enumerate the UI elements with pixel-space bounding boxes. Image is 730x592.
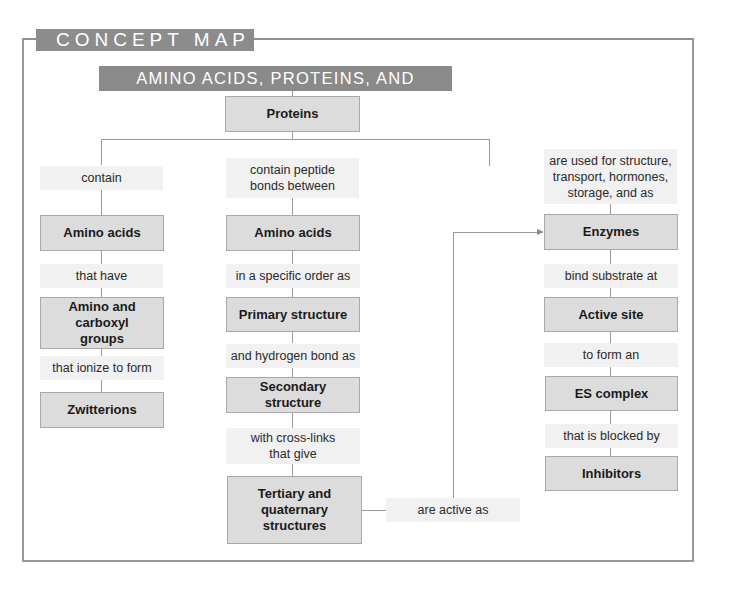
- node-proteins: Proteins: [225, 96, 360, 132]
- node-amino-acids-left: Amino acids: [40, 215, 164, 251]
- connector: [453, 232, 538, 233]
- connector: [610, 331, 611, 343]
- node-amino-acids-middle: Amino acids: [226, 215, 360, 251]
- connector: [292, 250, 293, 264]
- link-used-for: are used for structure, transport, hormo…: [544, 149, 677, 204]
- link-blocked-by: that is blocked by: [545, 424, 678, 448]
- node-amino-carboxyl-groups: Amino and carboxyl groups: [40, 297, 164, 349]
- link-contain: contain: [40, 166, 163, 190]
- connector: [610, 288, 611, 297]
- connector: [292, 368, 293, 377]
- link-bind-substrate: bind substrate at: [544, 264, 678, 288]
- connector: [610, 250, 611, 264]
- connector: [361, 510, 386, 511]
- connector: [610, 411, 611, 424]
- link-specific-order: in a specific order as: [226, 264, 360, 288]
- connector: [101, 190, 102, 215]
- connector: [101, 288, 102, 297]
- connector: [610, 203, 611, 214]
- node-inhibitors: Inhibitors: [545, 456, 678, 491]
- link-to-form-an: to form an: [544, 343, 678, 367]
- connector: [453, 232, 454, 498]
- arrow-right-icon: [537, 229, 544, 235]
- connector: [292, 412, 293, 428]
- connector: [292, 464, 293, 476]
- node-secondary-structure: Secondary structure: [226, 377, 360, 413]
- node-active-site: Active site: [544, 297, 678, 332]
- connector: [101, 139, 102, 165]
- link-peptide-bonds: contain peptide bonds between: [226, 158, 359, 198]
- concept-map-tab: CONCEPT MAP: [36, 29, 254, 51]
- node-enzymes: Enzymes: [544, 214, 678, 250]
- connector: [101, 139, 490, 140]
- connector: [101, 380, 102, 392]
- connector: [292, 198, 293, 215]
- connector: [101, 250, 102, 264]
- connector: [489, 139, 490, 166]
- link-cross-links: with cross-links that give: [226, 428, 360, 464]
- connector: [292, 288, 293, 297]
- node-primary-structure: Primary structure: [226, 297, 360, 332]
- connector: [101, 348, 102, 356]
- connector: [292, 331, 293, 343]
- node-tertiary-quaternary: Tertiary and quaternary structures: [227, 476, 362, 544]
- link-that-have: that have: [40, 264, 163, 288]
- link-hydrogen-bond: and hydrogen bond as: [226, 344, 360, 368]
- link-are-active-as: are active as: [386, 498, 520, 522]
- node-es-complex: ES complex: [545, 376, 678, 411]
- link-ionize: that ionize to form: [40, 356, 164, 380]
- concept-map-title: AMINO ACIDS, PROTEINS, AND ENZYMES: [99, 66, 452, 91]
- node-zwitterions: Zwitterions: [40, 392, 164, 428]
